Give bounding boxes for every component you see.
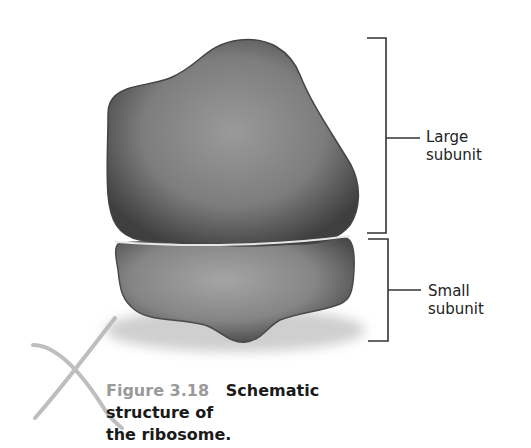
large-subunit-label-line2: subunit: [426, 146, 482, 164]
caption-line2: the ribosome.: [106, 424, 406, 446]
large-subunit-label: Large subunit: [426, 128, 482, 164]
large-subunit-bracket: [367, 38, 420, 233]
small-subunit-label-line2: subunit: [428, 300, 484, 318]
ribosome-figure: Large subunit Small subunit Figure 3.18 …: [0, 0, 531, 448]
figure-caption: Figure 3.18 Schematic structure of the r…: [106, 380, 406, 446]
small-subunit-label-line1: Small: [428, 282, 484, 300]
figure-number: Figure 3.18: [106, 381, 209, 400]
large-subunit-label-line1: Large: [426, 128, 482, 146]
small-subunit-bracket: [368, 239, 421, 341]
small-subunit-label: Small subunit: [428, 282, 484, 318]
large-subunit-shape: [107, 40, 358, 245]
